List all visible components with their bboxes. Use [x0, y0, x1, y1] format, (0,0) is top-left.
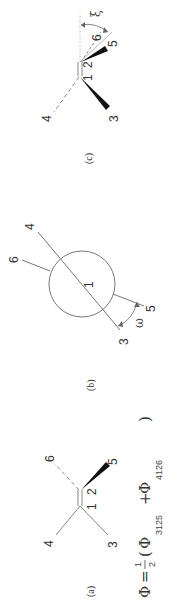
atom-label: 3	[117, 338, 131, 345]
atom-label: 6	[90, 34, 104, 41]
atom-label: 2	[81, 61, 95, 68]
atom-label: 6	[7, 256, 21, 263]
atom-label: 1	[85, 503, 99, 510]
panel-label: (a)	[85, 586, 97, 597]
arrowhead-icon	[103, 27, 108, 33]
formula-lhs: Φ	[136, 586, 154, 598]
bond-4-3	[38, 232, 120, 330]
atom-label: 6	[43, 455, 57, 462]
arrowhead-icon	[81, 22, 85, 28]
arrowhead-icon	[118, 321, 123, 327]
fraction-denominator: 2	[147, 562, 157, 567]
formula-close-paren: )	[136, 416, 154, 422]
atom-label: 5	[106, 40, 120, 47]
panel-a: 1 2 3 4 5 6 (a)	[42, 455, 120, 597]
bond-1-4	[56, 506, 80, 535]
atom-label: 4	[40, 115, 54, 122]
fraction-numerator: 1	[133, 562, 143, 567]
panel-label: (c)	[83, 153, 95, 164]
dihedral-angle-figure: 1 2 3 4 5 6 ξ (c) 1 3 4 5 6 ω (b)	[0, 0, 175, 602]
bond-5	[113, 294, 144, 306]
bond-1-4	[54, 77, 79, 112]
bond-2-5-wedge	[81, 462, 110, 490]
atom-label: 1	[82, 281, 96, 288]
formula-term1: Φ	[136, 537, 154, 549]
panel-b: 1 3 4 5 6 ω (b)	[7, 223, 158, 391]
bond-2-6	[55, 464, 79, 490]
atom-label: 1	[81, 74, 95, 81]
atom-label: 5	[106, 458, 120, 465]
panel-c: 1 2 3 4 5 6 ξ (c)	[40, 10, 121, 164]
atom-label: 3	[107, 115, 121, 122]
atom-label: 4	[23, 223, 37, 230]
formula-term2-subscript: 4126	[154, 460, 164, 480]
atom-label: 4	[42, 540, 56, 547]
atom-label: 2	[85, 488, 99, 495]
atom-label: 5	[144, 305, 158, 312]
formula-equals: =	[136, 570, 154, 583]
xi-angle-label: ξ	[89, 10, 103, 17]
formula-term2: Φ	[136, 482, 154, 494]
formula-open-paren: (	[136, 551, 154, 557]
panel-label: (b)	[85, 379, 97, 391]
formula-term1-subscript: 3125	[154, 515, 164, 535]
omega-angle-label: ω	[132, 318, 146, 328]
atom-label: 3	[106, 541, 120, 548]
formula: Φ = 1 2 ( Φ 3125 + Φ 4126 )	[133, 416, 164, 598]
bond-6	[22, 260, 50, 271]
